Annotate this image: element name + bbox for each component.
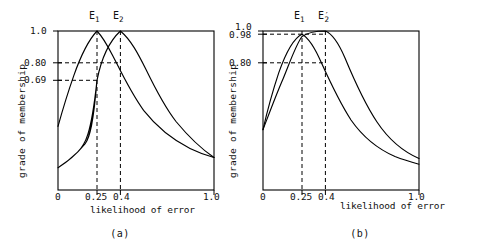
xtick-label-0.4-a: 0.4: [113, 192, 130, 202]
yaxis-title-a: grade of membership: [16, 64, 27, 178]
xtick-label-0.25-b: 0.25: [290, 192, 312, 202]
annotation-e2prime-b-sub: 2: [324, 15, 329, 24]
plot-frame-a: [58, 31, 214, 190]
figure-two-panel-membership: 1.0 0.80 0.69 0 0.25 0.4 1.0 likelihood …: [0, 0, 490, 252]
panel-b-plot: [245, 0, 490, 252]
xtick-label-0.25-a: 0.25: [85, 192, 107, 202]
xaxis-title-a: likelihood of error: [90, 204, 195, 215]
panel-b: 1.0 0.98 0.80 0 0.25 0.4 1.0 likelihood …: [245, 0, 490, 252]
yaxis-title-b: grade of membership: [227, 64, 238, 178]
curve-e2prime-b: [263, 31, 419, 159]
ytick-label-0.80-a: 0.80: [24, 58, 46, 68]
annotation-e1-a: E1: [89, 10, 100, 24]
xtick-label-0-a: 0: [55, 192, 61, 202]
xtick-label-1.0-a: 1.0: [203, 192, 220, 202]
ytick-label-0.98-b: 0.98: [229, 30, 251, 40]
panel-a: 1.0 0.80 0.69 0 0.25 0.4 1.0 likelihood …: [0, 0, 245, 252]
panel-b-caption: (b): [330, 228, 390, 239]
xtick-label-0-b: 0: [260, 192, 266, 202]
annotation-e2-a: E2: [113, 10, 124, 24]
xaxis-title-b: likelihood of error: [340, 200, 445, 211]
annotation-e1-b: E1: [294, 10, 305, 24]
curve-e1-b: [263, 34, 419, 164]
panel-a-caption: (a): [90, 228, 150, 239]
xtick-label-0.4-b: 0.4: [318, 192, 335, 202]
annotation-e1-b-sub: 1: [300, 15, 305, 24]
annotation-e1-a-sub: 1: [95, 15, 100, 24]
ytick-label-1.0-a: 1.0: [30, 26, 47, 36]
annotation-e2-a-sub: 2: [119, 15, 124, 24]
ytick-label-0.69-a: 0.69: [24, 75, 46, 85]
annotation-e2prime-b: E′2: [318, 10, 329, 24]
